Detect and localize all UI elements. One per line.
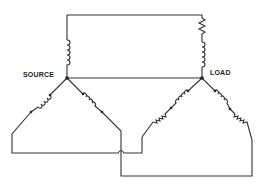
circuit-diagram bbox=[0, 0, 260, 190]
load-phase-b-inductor bbox=[215, 90, 230, 109]
load-phase-b-resistor bbox=[230, 109, 252, 140]
load-phase-b bbox=[202, 78, 215, 91]
load-label: LOAD bbox=[210, 69, 231, 76]
source-phase-b bbox=[67, 78, 83, 94]
source-node-dot bbox=[65, 76, 69, 80]
top-wire bbox=[67, 15, 202, 40]
load-phase-a bbox=[188, 78, 202, 91]
source-phase-b-inductor bbox=[83, 93, 102, 112]
load-phase-a-resistor bbox=[142, 108, 171, 137]
load-node-dot bbox=[200, 76, 204, 80]
source-phase-a bbox=[50, 78, 67, 95]
source-label: SOURCE bbox=[23, 71, 54, 78]
source-phase-a-inductor bbox=[31, 95, 51, 112]
load-phase-a-inductor bbox=[171, 90, 188, 108]
load-neutral-inductor bbox=[202, 42, 205, 78]
source-neutral-inductor bbox=[67, 40, 70, 78]
load-neutral-resistor bbox=[199, 18, 205, 42]
